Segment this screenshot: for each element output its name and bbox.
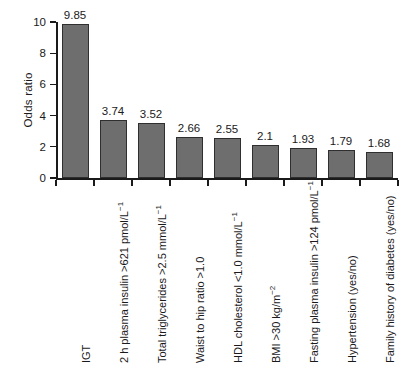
y-axis-tick [50,115,56,116]
bar [62,24,89,178]
x-axis-category-label: Waist to hip ratio >1.0 [194,257,206,363]
y-axis-tick-label: 6 [14,78,46,90]
x-axis-tick [359,180,360,186]
y-axis-tick [50,21,56,22]
y-axis-line [56,22,58,179]
x-axis-tick [321,180,322,186]
bar-value-label: 3.52 [121,108,181,120]
x-axis-tick [283,180,284,186]
y-axis-tick [50,53,56,54]
x-axis-tick [245,180,246,186]
bar [366,152,393,178]
x-axis-category-label: IGT [80,345,92,363]
x-axis-tick [93,180,94,186]
y-axis-tick-label: 0 [14,172,46,184]
odds-ratio-bar-chart: Odds ratio 0246810 9.853.743.522.662.552… [0,0,418,369]
x-axis-category-label: Family history of diabetes (yes/no) [384,195,396,363]
x-axis-tick [169,180,170,186]
y-axis-tick [50,146,56,147]
y-axis-tick-label: 8 [14,47,46,59]
bar [290,148,317,178]
x-axis-category-label: HDL cholesterol <1.0 mmol/L−1 [232,212,244,363]
y-axis-tick-label: 4 [14,110,46,122]
bar [214,138,241,178]
x-axis-category-label: BMI >30 kg/m−2 [270,286,282,363]
y-axis-tick-label: 2 [14,141,46,153]
y-axis-tick [50,84,56,85]
bar [328,150,355,178]
x-axis-category-label: Hypertension (yes/no) [346,255,358,363]
y-axis-tick-label: 10 [14,16,46,28]
bar [176,137,203,178]
x-axis-category-label: 2 h plasma insulin >621 pmol/L−1 [118,202,130,363]
y-axis-tick [50,177,56,178]
bar-value-label: 9.85 [45,9,105,21]
x-axis-tick [397,180,398,186]
bar [100,120,127,178]
x-axis-tick [207,180,208,186]
x-axis-line [56,178,398,180]
x-axis-tick [55,180,56,186]
x-axis-category-label: Fasting plasma insulin >124 pmol/L−1 [308,181,320,363]
bar-value-label: 1.68 [349,137,409,149]
bar [252,145,279,178]
x-axis-tick [131,180,132,186]
x-axis-category-label: Total triglycerides >2.5 mmol/L−1 [156,205,168,363]
